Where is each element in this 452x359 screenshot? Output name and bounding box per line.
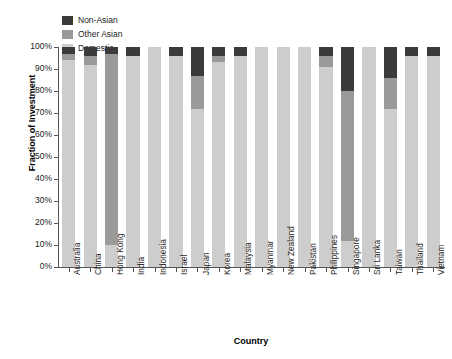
bar-segment-domestic (212, 62, 225, 267)
bar-segment-domestic (62, 60, 75, 267)
bar-china (84, 47, 97, 267)
x-tick-mark (219, 268, 220, 272)
bar-taiwan (384, 47, 397, 267)
x-tick-label-sri-lanka: Sri Lanka (372, 240, 382, 275)
bar-malaysia (234, 47, 247, 267)
x-tick-mark (133, 268, 134, 272)
bar-thailand (405, 47, 418, 267)
x-tick-mark (283, 268, 284, 272)
legend-item-other-asian: Other Asian (62, 28, 122, 40)
legend-item-non-asian: Non-Asian (62, 14, 122, 26)
y-tick-label: 70% (16, 107, 52, 117)
x-tick-label-malaysia: Malaysia (243, 242, 253, 275)
y-tick-label: 0% (16, 261, 52, 271)
y-tick-label: 20% (16, 217, 52, 227)
bar-segment-non-asian (341, 47, 354, 91)
x-tick-label-singapore: Singapore (351, 237, 361, 275)
y-tick-label: 10% (16, 239, 52, 249)
investment-fraction-stacked-bar-chart: Non-AsianOther AsianDomestic Fraction of… (0, 0, 452, 359)
bar-segment-non-asian (319, 47, 332, 56)
bar-segment-non-asian (191, 47, 204, 76)
x-tick-label-india: India (136, 257, 146, 275)
x-tick-mark (90, 268, 91, 272)
bar-vietnam (427, 47, 440, 267)
bar-segment-domestic (169, 56, 182, 267)
x-tick-label-pakistan: Pakistan (308, 243, 318, 275)
bar-segment-other-asian (384, 78, 397, 109)
bar-singapore (341, 47, 354, 267)
bar-segment-other-asian (62, 54, 75, 61)
bar-segment-non-asian (84, 47, 97, 56)
bar-segment-non-asian (105, 47, 118, 54)
bar-segment-domestic (362, 47, 375, 267)
legend-label: Non-Asian (78, 16, 118, 25)
x-tick-label-australia: Australia (72, 243, 82, 275)
x-tick-mark (305, 268, 306, 272)
x-tick-mark (155, 268, 156, 272)
bar-segment-domestic (234, 56, 247, 267)
y-tick-label: 100% (16, 41, 52, 51)
bar-segment-non-asian (212, 47, 225, 56)
x-axis-title: Country (58, 336, 444, 346)
x-tick-label-taiwan: Taiwan (394, 249, 404, 275)
x-tick-mark (240, 268, 241, 272)
legend-swatch-icon (62, 30, 73, 39)
y-tick-label: 30% (16, 195, 52, 205)
x-tick-mark (326, 268, 327, 272)
legend-swatch-icon (62, 16, 73, 25)
x-tick-label-indonesia: Indonesia (158, 239, 168, 275)
legend-label: Other Asian (78, 30, 122, 39)
bar-segment-non-asian (62, 47, 75, 54)
x-tick-label-new-zealand: New Zealand (286, 226, 296, 275)
y-axis-title: Fraction of Investment (27, 58, 37, 188)
y-tick-label: 90% (16, 63, 52, 73)
bar-segment-domestic (298, 47, 311, 267)
x-tick-mark (69, 268, 70, 272)
x-tick-mark (433, 268, 434, 272)
y-tick-label: 40% (16, 173, 52, 183)
bar-segment-other-asian (84, 56, 97, 65)
bar-segment-domestic (84, 65, 97, 267)
x-tick-mark (348, 268, 349, 272)
bar-segment-domestic (255, 47, 268, 267)
bar-segment-other-asian (341, 91, 354, 241)
bar-indonesia (148, 47, 161, 267)
x-tick-mark (412, 268, 413, 272)
bar-segment-other-asian (319, 56, 332, 67)
bar-segment-other-asian (191, 76, 204, 109)
bar-segment-domestic (384, 109, 397, 267)
bar-segment-non-asian (427, 47, 440, 56)
bar-segment-non-asian (405, 47, 418, 56)
x-tick-mark (176, 268, 177, 272)
bar-segment-domestic (148, 47, 161, 267)
y-tick-label: 80% (16, 85, 52, 95)
x-tick-label-vietnam: Vietnam (436, 245, 446, 275)
x-tick-label-hong-kong: Hong Kong (115, 233, 125, 275)
bar-segment-non-asian (169, 47, 182, 56)
bar-segment-domestic (405, 56, 418, 267)
bar-segment-non-asian (234, 47, 247, 56)
bar-segment-domestic (427, 56, 440, 267)
x-tick-mark (369, 268, 370, 272)
x-tick-label-thailand: Thailand (415, 243, 425, 275)
bar-segment-domestic (126, 56, 139, 267)
bar-myanmar (255, 47, 268, 267)
bar-segment-domestic (191, 109, 204, 267)
x-tick-mark (262, 268, 263, 272)
x-tick-label-myanmar: Myanmar (265, 240, 275, 275)
bar-segment-non-asian (126, 47, 139, 56)
bar-segment-other-asian (212, 56, 225, 63)
y-tick-label: 50% (16, 151, 52, 161)
x-tick-label-china: China (93, 253, 103, 275)
x-tick-label-japan: Japan (201, 252, 211, 275)
y-tick-label: 60% (16, 129, 52, 139)
x-tick-label-israel: Israel (179, 255, 189, 275)
x-tick-label-philippines: Philippines (329, 235, 339, 275)
bar-segment-non-asian (384, 47, 397, 78)
bar-israel (169, 47, 182, 267)
bar-sri-lanka (362, 47, 375, 267)
x-tick-label-korea: Korea (222, 253, 232, 275)
x-tick-mark (112, 268, 113, 272)
bar-korea (212, 47, 225, 267)
bar-india (126, 47, 139, 267)
